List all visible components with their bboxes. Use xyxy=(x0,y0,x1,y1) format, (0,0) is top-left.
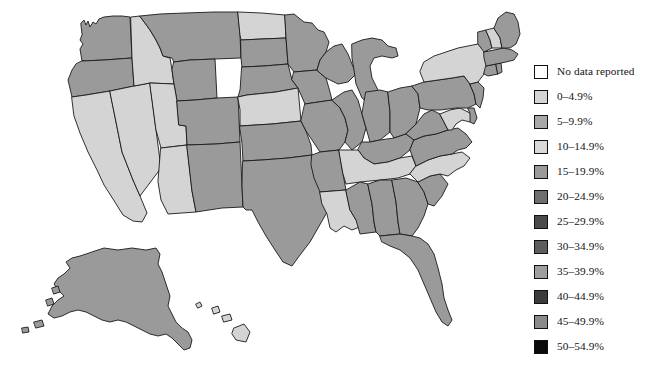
legend-item[interactable]: 0–4.9% xyxy=(534,84,664,109)
legend-swatch-30-34 xyxy=(534,240,548,254)
legend-item[interactable]: 45–49.9% xyxy=(534,309,664,334)
state-IN[interactable] xyxy=(362,90,390,142)
legend-label: 30–34.9% xyxy=(557,241,604,252)
legend-swatch-40-44 xyxy=(534,290,548,304)
legend-item[interactable]: 10–14.9% xyxy=(534,134,664,159)
state-NM[interactable] xyxy=(187,142,243,212)
legend-swatch-50-54 xyxy=(534,340,548,354)
state-AK[interactable] xyxy=(48,248,192,350)
legend-swatch-no-data xyxy=(534,65,548,79)
us-map-svg xyxy=(0,0,530,378)
state-ND[interactable] xyxy=(238,12,286,40)
legend-swatch-0-4 xyxy=(534,90,548,104)
legend-label: 35–39.9% xyxy=(557,266,604,277)
state-WY[interactable] xyxy=(172,59,217,101)
legend-label: 40–44.9% xyxy=(557,291,604,302)
legend-item[interactable]: 50–54.9% xyxy=(534,334,664,359)
state-WA[interactable] xyxy=(80,16,132,61)
legend-item[interactable]: 25–29.9% xyxy=(534,209,664,234)
legend-label: 50–54.9% xyxy=(557,341,604,352)
choropleth-map-figure: No data reported 0–4.9% 5–9.9% 10–14.9% … xyxy=(0,0,664,378)
state-HI-island-2 xyxy=(212,306,220,314)
legend-item[interactable]: 40–44.9% xyxy=(534,284,664,309)
legend-label: 20–24.9% xyxy=(557,191,604,202)
state-HI-island-3 xyxy=(222,314,232,322)
legend-swatch-35-39 xyxy=(534,265,548,279)
states-layer xyxy=(22,12,520,350)
legend-swatch-25-29 xyxy=(534,215,548,229)
legend-swatch-15-19 xyxy=(534,165,548,179)
legend-item[interactable]: 35–39.9% xyxy=(534,259,664,284)
state-HI-island-1 xyxy=(196,302,202,308)
state-SD[interactable] xyxy=(241,38,288,67)
legend-label: 5–9.9% xyxy=(557,116,592,127)
state-CO[interactable] xyxy=(177,97,240,145)
legend-label: 25–29.9% xyxy=(557,216,604,227)
legend-item[interactable]: 5–9.9% xyxy=(534,109,664,134)
legend-swatch-5-9 xyxy=(534,115,548,129)
legend: No data reported 0–4.9% 5–9.9% 10–14.9% … xyxy=(534,59,664,359)
legend-label: 45–49.9% xyxy=(557,316,604,327)
state-FL[interactable] xyxy=(380,234,452,326)
legend-label: 0–4.9% xyxy=(557,91,592,102)
legend-swatch-10-14 xyxy=(534,140,548,154)
state-HI-island-4[interactable] xyxy=(232,324,250,342)
state-AK-islet-3 xyxy=(34,320,44,328)
state-AK-islet-4 xyxy=(22,327,29,333)
legend-label: No data reported xyxy=(557,66,635,77)
legend-item[interactable]: No data reported xyxy=(534,59,664,84)
legend-label: 10–14.9% xyxy=(557,141,604,152)
legend-item[interactable]: 15–19.9% xyxy=(534,159,664,184)
legend-swatch-45-49 xyxy=(534,315,548,329)
state-OK[interactable] xyxy=(240,121,312,161)
state-AK-islet-1 xyxy=(52,286,60,294)
legend-item[interactable]: 20–24.9% xyxy=(534,184,664,209)
state-MA[interactable] xyxy=(484,48,518,66)
legend-label: 15–19.9% xyxy=(557,166,604,177)
state-PA[interactable] xyxy=(412,76,476,110)
state-AK-islet-2 xyxy=(46,298,54,306)
us-map xyxy=(0,0,530,378)
legend-item[interactable]: 30–34.9% xyxy=(534,234,664,259)
legend-swatch-20-24 xyxy=(534,190,548,204)
